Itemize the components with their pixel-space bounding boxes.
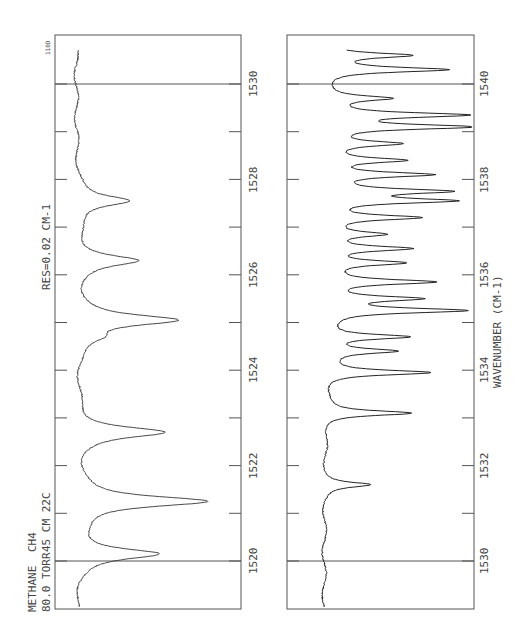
bottom-tick-label-3: 1536 [478, 262, 491, 289]
resolution-label: RES=0.02 CM-1 [40, 204, 53, 290]
top-tick-label-1: 1522 [247, 453, 260, 480]
bottom-tick-label-4: 1538 [478, 167, 491, 194]
sample-label-line1: METHANE [26, 566, 39, 612]
bottom-tick-label-1: 1532 [478, 453, 491, 480]
bottom-panel-frame [287, 35, 474, 609]
bottom-tick-label-2: 1534 [478, 357, 491, 384]
sample-label-line2: 80.0 TORR [40, 552, 53, 612]
top-panel-frame [55, 35, 241, 609]
top-panel-ticks [55, 84, 241, 561]
bottom-panel-ticks [287, 84, 474, 561]
top-tick-label-5: 1530 [247, 71, 260, 98]
gas-label-line1: CH4 [26, 532, 39, 552]
top-tick-label-3: 1526 [247, 262, 260, 289]
bottom-tick-label-5: 1540 [478, 71, 491, 98]
top-spectrum-trace [74, 50, 208, 607]
bottom-spectrum-trace [322, 50, 472, 607]
top-tick-label-4: 1528 [247, 167, 260, 194]
gas-label-line2: 45 CM 22C [40, 492, 53, 552]
bottom-tick-label-0: 1530 [478, 548, 491, 575]
corner-label: 110D [44, 41, 51, 55]
top-tick-label-2: 1524 [247, 357, 260, 384]
top-tick-label-0: 1520 [247, 548, 260, 575]
x-axis-title: WAVENUMBER (CM-1) [491, 275, 504, 388]
spectrum-chart [0, 0, 531, 640]
